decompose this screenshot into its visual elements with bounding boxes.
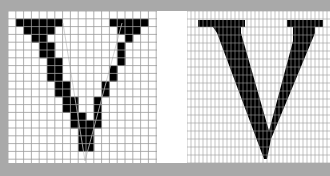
filled-pixel (109, 19, 117, 27)
high-res-v-bitmap-panel (187, 11, 330, 163)
filled-pixel (86, 144, 94, 152)
filled-pixel (55, 58, 63, 66)
filled-pixel (125, 34, 133, 42)
filled-pixel (63, 89, 71, 97)
filled-pixel (63, 105, 71, 113)
filled-pixel (39, 27, 47, 35)
filled-pixel (47, 58, 55, 66)
filled-pixel (133, 27, 141, 35)
filled-pixel (24, 19, 32, 27)
filled-pixel (31, 27, 39, 35)
filled-pixel (117, 42, 125, 50)
low-res-v-grid (8, 11, 157, 163)
v-glyph (198, 20, 323, 159)
filled-pixel (55, 19, 63, 27)
filled-pixel (55, 81, 63, 89)
filled-pixel (125, 27, 133, 35)
filled-pixel (47, 19, 55, 27)
filled-pixel (117, 27, 125, 35)
filled-pixel (63, 81, 71, 89)
filled-pixel (55, 89, 63, 97)
filled-pixel (47, 42, 55, 50)
filled-pixel (39, 42, 47, 50)
filled-pixel (117, 58, 125, 66)
filled-pixel (16, 19, 24, 27)
filled-pixel (24, 27, 32, 35)
low-res-v-bitmap-panel (8, 11, 157, 163)
filled-pixel (70, 120, 78, 128)
filled-pixel (78, 112, 86, 120)
filled-pixel (133, 19, 141, 27)
filled-pixel (70, 97, 78, 105)
filled-pixel (47, 50, 55, 58)
filled-pixel (39, 50, 47, 58)
high-res-v-grid (187, 11, 330, 163)
filled-pixel (31, 19, 39, 27)
filled-pixel (63, 97, 71, 105)
filled-pixel (47, 73, 55, 81)
filled-pixel (86, 120, 94, 128)
filled-pixel (117, 50, 125, 58)
filled-pixel (55, 73, 63, 81)
filled-pixel (47, 66, 55, 74)
filled-pixel (109, 73, 117, 81)
filled-pixel (125, 19, 133, 27)
filled-pixel (31, 34, 39, 42)
filled-pixel (39, 34, 47, 42)
panel-divider (157, 11, 187, 163)
filled-pixel (55, 66, 63, 74)
filled-pixel (78, 128, 86, 136)
filled-pixel (47, 27, 55, 35)
filled-pixel (141, 19, 149, 27)
filled-pixel (39, 19, 47, 27)
